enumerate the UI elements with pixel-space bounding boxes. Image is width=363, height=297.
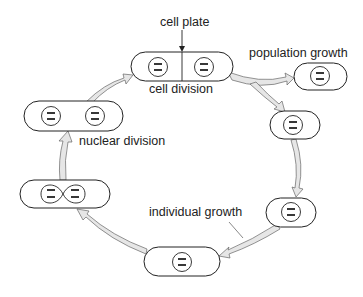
cell-division-cell [131,52,233,81]
nucleus-icon [282,203,301,222]
nucleus-icon [173,253,192,272]
growing-cell-small [266,198,316,227]
daughter-cell [270,111,320,139]
nucleus-icon [86,107,105,126]
nucleus-icon [42,107,61,126]
arrow-bottom-to-left [77,209,147,254]
dividing-nucleus-cell [20,180,110,208]
arrow-left-up [59,131,72,180]
population-daughter-cell [294,63,347,90]
population-growth-label: population growth [249,47,348,60]
nuclear-division-label: nuclear division [79,135,165,148]
two-nuclei-cell [24,101,123,131]
nucleus-icon [195,58,214,77]
nucleus-icon [284,116,303,135]
arrow-right-down [291,139,303,197]
arrow-branch-population-growth [228,72,294,112]
growing-cell-large [144,247,220,276]
arrow-nuclear-to-celldivision [86,74,133,103]
nucleus-icon [311,67,330,86]
arrow-right-to-bottom [219,224,280,258]
individual-growth-label: individual growth [149,206,242,219]
individual-growth-leader-line [229,222,243,238]
cell-plate-label: cell plate [160,16,209,29]
cell-cycle-diagram [0,0,363,297]
cell-division-label: cell division [149,83,213,96]
nucleus-icon [149,58,168,77]
cell-plate-pointer [179,30,185,52]
